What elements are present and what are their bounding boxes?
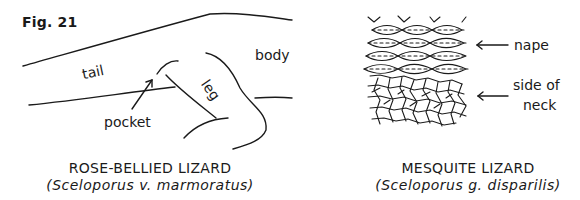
leg-back-outline	[206, 53, 266, 149]
right-scientific-name: (Sceloporus g. disparilis)	[358, 177, 578, 193]
pocket-arrow-line	[132, 80, 152, 109]
tail-bottom-outline	[29, 87, 175, 105]
right-caption: MESQUITE LIZARD (Sceloporus g. disparili…	[358, 160, 578, 193]
pocket-fold	[157, 61, 178, 74]
left-caption: ROSE-BELLIED LIZARD (Sceloporus v. marmo…	[40, 160, 260, 193]
body-bottom-outline	[255, 97, 292, 98]
neck-scales	[368, 75, 466, 126]
tail-top-outline	[23, 14, 292, 66]
side-of-neck-label-line1: side of	[513, 77, 560, 93]
side-of-neck-label-line2: neck	[523, 97, 556, 113]
nape-scales	[364, 16, 468, 74]
body-label: body	[255, 47, 290, 63]
pocket-label: pocket	[104, 114, 151, 130]
left-common-name: ROSE-BELLIED LIZARD	[40, 160, 260, 176]
nape-label: nape	[514, 37, 549, 53]
right-common-name: MESQUITE LIZARD	[358, 160, 578, 176]
left-scientific-name: (Sceloporus v. marmoratus)	[40, 177, 260, 193]
leg-lower-outline	[184, 118, 228, 138]
